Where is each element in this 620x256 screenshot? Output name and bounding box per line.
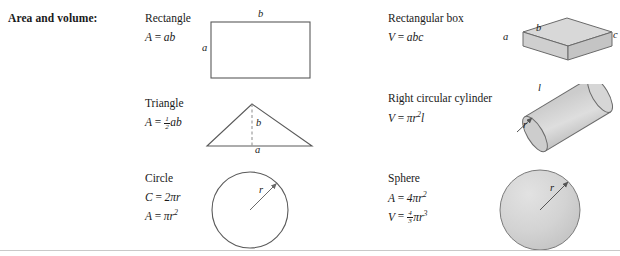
- rectangle-outline: [211, 22, 310, 78]
- shape-name-cylinder: Right circular cylinder: [388, 92, 492, 105]
- shape-name-rectangle: Rectangle: [145, 12, 191, 25]
- formula-triangle-area: A=12ab: [145, 115, 184, 131]
- circle-radius-arrow: [250, 184, 277, 211]
- formula-lhs: A: [388, 192, 395, 204]
- formula-lhs: C: [145, 191, 153, 203]
- cylinder-figure: l r: [495, 84, 620, 168]
- formula-rhs: 4πr: [407, 192, 423, 204]
- sphere-label-r: r: [550, 182, 554, 193]
- cylinder-label-l: l: [538, 82, 541, 93]
- formula-exponent: 2: [174, 208, 178, 217]
- cylinder-label-r: r: [523, 119, 527, 130]
- sphere-svg: [496, 166, 620, 256]
- entry-triangle: Triangle A=12ab: [145, 97, 184, 131]
- formula-rel: =: [395, 192, 407, 204]
- formula-lhs: A: [145, 31, 152, 43]
- formula-sphere-area: A=4πr2: [388, 190, 428, 206]
- rectangle-label-b: b: [258, 8, 263, 19]
- page-title: Area and volume:: [8, 12, 98, 24]
- rectangle-svg: [200, 12, 320, 84]
- rectangular-box-svg: [495, 14, 620, 76]
- entry-sphere: Sphere A=4πr2 V=43πr3: [388, 172, 428, 226]
- formula-rhs: abc: [407, 31, 424, 43]
- bottom-divider: [0, 250, 620, 251]
- cylinder-svg: [495, 84, 620, 164]
- formula-circle-area: A=πr2: [145, 208, 180, 224]
- sphere-figure: r: [496, 166, 620, 256]
- formula-box-volume: V=abc: [388, 30, 464, 46]
- rectangle-figure: b a: [200, 12, 320, 88]
- entry-rectangle: Rectangle A=ab: [145, 12, 191, 46]
- circle-svg: [203, 166, 318, 254]
- formula-lhs: A: [145, 210, 152, 222]
- formula-rel: =: [152, 210, 164, 222]
- triangle-label-b: b: [256, 117, 261, 128]
- formula-rhs: πr: [164, 210, 174, 222]
- entry-rectangular-box: Rectangular box V=abc: [388, 12, 464, 46]
- formula-rectangle-area: A=ab: [145, 30, 191, 46]
- formula-rhs-tail: ab: [170, 116, 182, 128]
- formula-rel: =: [152, 31, 164, 43]
- formula-tail: l: [421, 112, 424, 124]
- shape-name-circle: Circle: [145, 172, 180, 185]
- box-label-c: c: [613, 29, 618, 40]
- formula-cylinder-volume: V=πr2l: [388, 110, 492, 126]
- formula-sphere-volume: V=43πr3: [388, 209, 428, 226]
- shape-name-sphere: Sphere: [388, 172, 428, 185]
- formula-exponent: 2: [423, 190, 427, 199]
- formula-rel: =: [395, 31, 407, 43]
- formula-lhs: V: [388, 31, 395, 43]
- formula-rhs: ab: [164, 31, 176, 43]
- formula-rhs-tail: πr: [413, 210, 423, 222]
- shape-name-rectangular-box: Rectangular box: [388, 12, 464, 25]
- box-label-a: a: [503, 31, 508, 42]
- entry-cylinder: Right circular cylinder V=πr2l: [388, 92, 492, 127]
- box-label-b: b: [536, 22, 541, 33]
- formula-rel: =: [395, 112, 407, 124]
- triangle-figure: b a: [200, 96, 320, 162]
- formula-exponent: 3: [424, 209, 428, 218]
- circle-figure: r: [203, 166, 318, 256]
- shape-name-triangle: Triangle: [145, 97, 184, 110]
- formula-lhs: A: [145, 116, 152, 128]
- formula-rhs: πr: [407, 112, 417, 124]
- formula-rel: =: [152, 116, 164, 128]
- rectangle-label-a: a: [202, 42, 207, 53]
- entry-circle: Circle C=2πr A=πr2: [145, 172, 180, 224]
- triangle-label-a: a: [255, 144, 260, 155]
- formula-rel: =: [395, 210, 407, 222]
- formula-rel: =: [153, 191, 165, 203]
- formula-rhs: 2πr: [164, 191, 180, 203]
- cylinder-body-group: [518, 84, 617, 155]
- reference-sheet: Area and volume: Rectangle A=ab b a Tria…: [0, 0, 620, 256]
- rectangular-box-figure: b a c: [495, 14, 620, 80]
- formula-lhs: V: [388, 112, 395, 124]
- formula-lhs: V: [388, 210, 395, 222]
- formula-circle-circumference: C=2πr: [145, 190, 180, 206]
- circle-label-r: r: [259, 184, 263, 195]
